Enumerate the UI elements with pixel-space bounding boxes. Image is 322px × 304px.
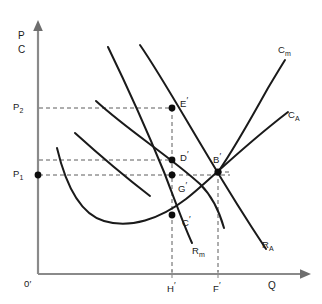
curve-label-cm: Cm (278, 45, 291, 57)
y-axis-label-c: C (18, 45, 25, 55)
point-label-g-prime: G′ (178, 181, 187, 194)
point-label-c-prime: C′ (182, 215, 191, 228)
point-dot-d-prime (169, 157, 176, 164)
point-label-e-prime: E′ (180, 96, 188, 109)
point-dot-c-prime (169, 212, 176, 219)
plot-svg (0, 0, 322, 304)
point-dot-p1-axis (35, 172, 42, 179)
point-dot-g-prime (169, 172, 176, 179)
point-dot-e-prime (169, 105, 176, 112)
curve-ca-left-branch (75, 133, 150, 196)
point-label-b-prime: B′ (213, 152, 221, 165)
curve-average-revenue (140, 45, 266, 249)
diagram-canvas: P C Q 0′ P2 P1 H′ F′ Cm CA Rm RA E′ D′ G… (0, 0, 322, 304)
curve-marginal-cost-upper (218, 60, 285, 172)
y-axis-arrowhead (33, 20, 43, 31)
point-label-d-prime: D′ (180, 150, 189, 163)
x-tick-label-h: H′ (167, 281, 176, 294)
origin-label: 0′ (24, 279, 31, 289)
y-axis-label-p: P (18, 31, 25, 41)
y-tick-label-p1: P1 (13, 169, 24, 181)
curve-label-rm: Rm (192, 246, 205, 258)
curve-label-ca: CA (288, 110, 300, 122)
x-axis-arrowhead (300, 269, 311, 279)
y-tick-label-p2: P2 (13, 102, 24, 114)
x-tick-label-f: F′ (213, 281, 221, 294)
point-dot-b-prime (214, 168, 221, 175)
x-axis-label-q: Q (268, 281, 276, 291)
curve-label-ra: RA (262, 240, 274, 252)
